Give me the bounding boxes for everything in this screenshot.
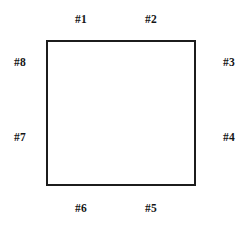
edge-label-2: #2	[145, 14, 157, 26]
square-shape	[46, 40, 196, 186]
edge-label-5: #5	[145, 203, 157, 215]
edge-label-7: #7	[14, 132, 26, 144]
edge-label-4: #4	[223, 132, 235, 144]
edge-label-1: #1	[75, 14, 87, 26]
diagram-canvas: #1 #2 #3 #4 #5 #6 #7 #8	[0, 0, 249, 229]
edge-label-6: #6	[75, 203, 87, 215]
edge-label-3: #3	[223, 57, 235, 69]
edge-label-8: #8	[14, 57, 26, 69]
